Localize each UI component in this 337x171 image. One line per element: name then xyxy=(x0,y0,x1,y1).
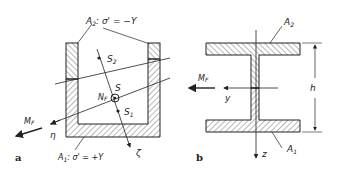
right-wall-top-zone xyxy=(148,43,160,59)
leader-a2-left xyxy=(77,24,92,44)
label-a1-bottom: A1: σ' = +Y xyxy=(57,153,104,163)
leader-a1 xyxy=(75,137,84,150)
figure-label-b: b xyxy=(196,152,203,163)
label-nf: NF xyxy=(98,93,108,102)
label-h: h xyxy=(310,83,316,93)
bottom-flange xyxy=(206,88,300,132)
eta-arrow xyxy=(51,120,60,124)
point-s xyxy=(114,97,116,99)
label-y: y xyxy=(224,93,231,103)
diagram-canvas: A2: σ' = −Y S2 S NF S1 MF η ζ A1: σ' = +… xyxy=(0,0,337,171)
figure-b: A2 MF y z h A1 b xyxy=(189,17,322,163)
leader-a1-b xyxy=(272,132,282,148)
label-a1-b: A1 xyxy=(286,144,297,155)
figure-label-a: a xyxy=(15,152,22,163)
leader-a2-b xyxy=(270,26,282,43)
point-s2 xyxy=(97,56,100,59)
left-wall-top-zone xyxy=(66,43,78,79)
label-mf-a: MF xyxy=(24,117,35,126)
label-eta: η xyxy=(50,130,56,140)
label-z: z xyxy=(261,149,267,159)
label-a2-top: A2: σ' = −Y xyxy=(85,16,138,27)
figure-a: A2: σ' = −Y S2 S NF S1 MF η ζ A1: σ' = +… xyxy=(15,16,170,163)
moment-arrow-a xyxy=(16,128,42,136)
label-a2-b: A2 xyxy=(283,17,294,28)
label-s1: S1 xyxy=(124,107,134,118)
label-s2: S2 xyxy=(107,54,117,65)
label-mf-b: MF xyxy=(198,74,209,83)
label-s: S xyxy=(115,83,121,93)
label-zeta: ζ xyxy=(135,148,142,158)
point-s1 xyxy=(116,109,119,112)
leader-a2-right xyxy=(103,28,150,44)
top-flange xyxy=(206,43,300,88)
